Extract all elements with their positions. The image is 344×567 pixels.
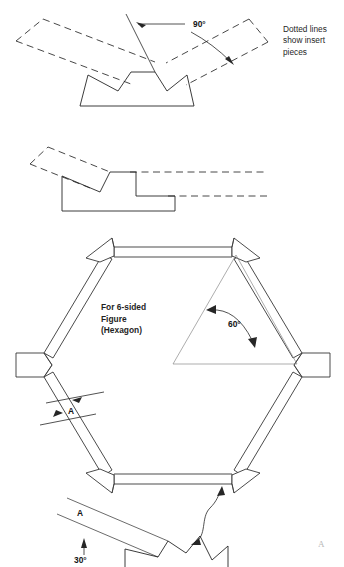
- bottom-v-notch: [125, 536, 228, 567]
- corner-callout-leader: [191, 486, 225, 545]
- drawing-sheet: 90° Dotted lines show insert pieces: [0, 0, 344, 567]
- figure-bottom-miter-detail: 30° A: [0, 0, 344, 567]
- bottom-rail: [57, 498, 168, 557]
- page-edge-cut-mark: A: [318, 538, 332, 564]
- angle-30-marker: [81, 538, 87, 555]
- angle-30-label: 30°: [74, 555, 87, 565]
- bottom-width-A-label: A: [77, 508, 83, 518]
